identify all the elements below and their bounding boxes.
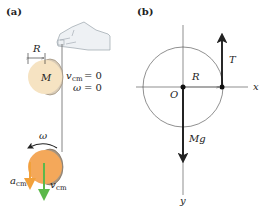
mass-label: M xyxy=(40,72,52,83)
acm-label: a cm xyxy=(10,175,27,188)
panel-a: (a) M R v cm = 0 ω = 0 xyxy=(6,6,110,195)
svg-text:ω: ω xyxy=(73,82,81,93)
tension-label: T xyxy=(229,54,237,65)
initial-conditions: v cm = 0 ω = 0 xyxy=(66,70,102,93)
disk-falling xyxy=(28,149,63,185)
panel-a-label: (a) xyxy=(6,6,22,17)
yo-yo-diagram: (a) M R v cm = 0 ω = 0 xyxy=(0,0,272,212)
svg-text:cm: cm xyxy=(56,184,67,192)
radius-label-b: R xyxy=(191,71,200,82)
x-axis-label: x xyxy=(253,81,259,92)
svg-text:cm: cm xyxy=(16,180,27,188)
panel-b-label: (b) xyxy=(137,6,153,17)
radius-label-a: R xyxy=(32,43,41,54)
panel-b: (b) x y R O T Mg xyxy=(136,6,259,206)
omega-label: ω xyxy=(39,130,47,141)
svg-text:= 0: = 0 xyxy=(84,82,102,93)
omega-arrow-icon xyxy=(30,144,57,148)
weight-label: Mg xyxy=(188,133,206,144)
origin-label: O xyxy=(170,89,178,100)
hand-icon xyxy=(57,22,110,50)
svg-text:= 0: = 0 xyxy=(84,70,102,81)
y-axis-label: y xyxy=(179,195,186,206)
disk-initial: M xyxy=(28,59,63,95)
